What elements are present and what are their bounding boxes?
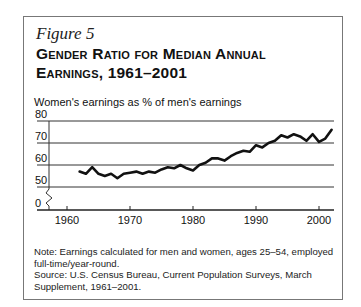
y-tick-label: 70 xyxy=(35,130,47,142)
y-tick-label: 50 xyxy=(35,174,47,186)
gridlines xyxy=(37,121,334,187)
y-tick-label: 80 xyxy=(35,108,47,120)
y-tick-labels: 050607080 xyxy=(35,108,47,209)
note-text: Note: Earnings calculated for men and wo… xyxy=(34,246,334,270)
x-tick-label: 1960 xyxy=(55,214,79,226)
y-tick-label: 0 xyxy=(35,197,41,209)
x-tick-label: 1990 xyxy=(244,214,268,226)
x-tick-label: 1980 xyxy=(181,214,205,226)
data-line xyxy=(80,130,332,178)
x-tick-labels: 19601970198019902000 xyxy=(55,206,331,226)
axis-break-icon xyxy=(46,189,52,210)
x-tick-label: 1970 xyxy=(118,214,142,226)
source-text: Source: U.S. Census Bureau, Current Popu… xyxy=(34,269,334,293)
y-tick-label: 60 xyxy=(35,152,47,164)
x-tick-label: 2000 xyxy=(307,214,331,226)
